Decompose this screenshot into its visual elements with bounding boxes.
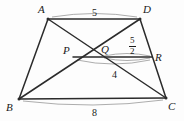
vertex-label-d: D bbox=[143, 4, 151, 15]
measurement-pq-length: 4 bbox=[112, 70, 117, 80]
fraction-numerator: 5 bbox=[129, 36, 136, 45]
vertex-label-c: C bbox=[168, 101, 175, 112]
vertex-label-a: A bbox=[38, 4, 45, 15]
vertex-label-b: B bbox=[6, 102, 13, 113]
side-AB bbox=[19, 19, 48, 99]
vertex-dot-d bbox=[139, 18, 142, 21]
measurement-qr-length: 52 bbox=[129, 36, 136, 56]
vertex-dot-b bbox=[18, 98, 21, 101]
diagonal-BD bbox=[19, 19, 140, 99]
arc-QR-upper bbox=[104, 54, 150, 57]
arc-QR-lower bbox=[104, 58, 150, 61]
geometry-figure: ADBCPQR58452 bbox=[0, 0, 184, 121]
vertex-label-p: P bbox=[63, 45, 70, 56]
measurement-ad-length: 5 bbox=[92, 8, 97, 18]
measurement-bc-length: 8 bbox=[92, 108, 97, 118]
side-BC bbox=[19, 98, 166, 99]
vertex-label-q: Q bbox=[101, 44, 109, 55]
arc-BC bbox=[23, 100, 163, 105]
side-DC bbox=[140, 19, 166, 98]
vertex-label-r: R bbox=[155, 52, 162, 63]
fraction-denominator: 2 bbox=[129, 47, 136, 56]
vertex-dot-a bbox=[47, 18, 50, 21]
